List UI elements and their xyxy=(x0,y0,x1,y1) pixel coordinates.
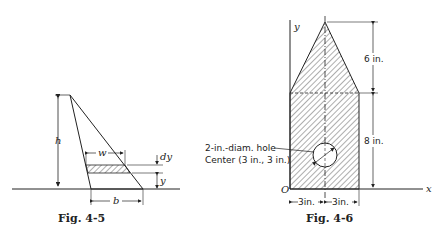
label-right-3in: 3in. xyxy=(332,197,349,207)
label-8in: 8 in. xyxy=(364,136,384,146)
dy-label: dy xyxy=(160,151,172,162)
caption-fig-4-5: Fig. 4-5 xyxy=(58,212,105,225)
caption-fig-4-6: Fig. 4-6 xyxy=(306,212,354,225)
h-label: h xyxy=(55,135,61,146)
figure-4-5: h w dy y b Fig. 4-5 xyxy=(12,95,180,225)
x-axis-label: x xyxy=(426,183,432,194)
b-label: b xyxy=(113,195,119,206)
origin-label: O xyxy=(281,184,289,195)
w-label: w xyxy=(98,147,107,158)
hole-description: 2-in.-diam. hole xyxy=(205,143,276,153)
label-6in: 6 in. xyxy=(364,54,384,64)
hole-center: Center (3 in., 3 in.) xyxy=(205,155,290,165)
label-left-3in: 3in. xyxy=(298,197,315,207)
y-label: y xyxy=(159,175,166,186)
y-axis-label: y xyxy=(293,21,300,32)
triangle xyxy=(70,95,143,189)
strip xyxy=(86,165,130,173)
figures-canvas: h w dy y b Fig. 4-5 y x O xyxy=(0,0,441,239)
figure-4-6: y x O 6 in. 8 in. 2-in.-diam. hole Cente… xyxy=(205,16,432,225)
